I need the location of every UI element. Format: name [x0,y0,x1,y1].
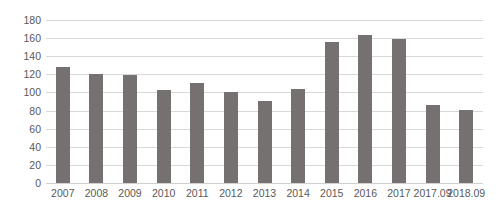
x-tick-label: 2017.09 [414,188,452,199]
y-tick-label: 120 [5,69,41,80]
bar[interactable] [392,39,406,183]
x-axis: 2007200820092010201120122013201420152016… [46,188,483,208]
x-tick-label: 2013 [253,188,276,199]
bar-chart: 020406080100120140160180 200720082009201… [0,0,500,220]
x-tick-label: 2011 [186,188,209,199]
x-tick-label: 2007 [51,188,74,199]
x-tick-label: 2010 [152,188,175,199]
bar[interactable] [258,101,272,183]
bar[interactable] [157,90,171,183]
y-tick-label: 140 [5,51,41,62]
x-tick-label: 2012 [219,188,242,199]
y-tick-label: 80 [5,105,41,116]
x-tick-label: 2018.09 [447,188,485,199]
bar[interactable] [325,42,339,183]
x-tick-label: 2015 [320,188,343,199]
y-tick-label: 40 [5,142,41,153]
y-tick-label: 180 [5,15,41,26]
x-tick-label: 2009 [118,188,141,199]
bar[interactable] [224,92,238,183]
bars-layer [46,20,483,183]
bar[interactable] [123,75,137,183]
x-tick-label: 2014 [286,188,309,199]
bar[interactable] [358,35,372,183]
bar[interactable] [190,83,204,183]
y-tick-label: 160 [5,33,41,44]
bar[interactable] [89,74,103,183]
y-tick-label: 60 [5,123,41,134]
bar[interactable] [291,89,305,183]
gridline [46,183,483,184]
x-tick-label: 2008 [85,188,108,199]
y-tick-label: 0 [5,178,41,189]
x-tick-label: 2016 [354,188,377,199]
y-tick-label: 100 [5,87,41,98]
bar[interactable] [426,105,440,183]
bar[interactable] [459,110,473,183]
y-tick-label: 20 [5,160,41,171]
x-tick-label: 2017 [387,188,410,199]
bar[interactable] [56,67,70,183]
